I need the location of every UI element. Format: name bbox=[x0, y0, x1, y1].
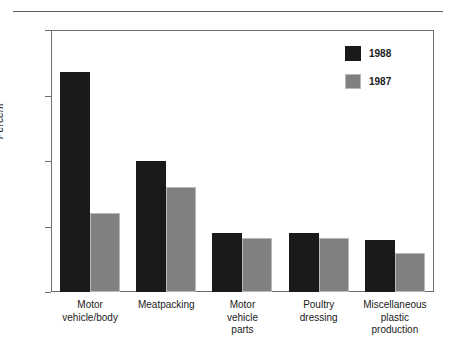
bar-group bbox=[204, 31, 280, 292]
gray-swatch bbox=[345, 74, 361, 89]
legend-label: 1988 bbox=[369, 48, 391, 59]
y-tick-mark bbox=[45, 96, 51, 97]
bar-1987-4[interactable] bbox=[319, 238, 349, 292]
chart-legend: 19881987 bbox=[345, 43, 425, 99]
legend-item-1988[interactable]: 1988 bbox=[345, 43, 425, 63]
x-category-label: Miscellaneous plastic production bbox=[345, 299, 445, 337]
legend-label: 1987 bbox=[369, 76, 391, 87]
bar-1988-5[interactable] bbox=[365, 240, 395, 292]
bar-1988-4[interactable] bbox=[289, 233, 319, 292]
x-axis-category-labels: Motor vehicle/bodyMeatpackingMotor vehic… bbox=[52, 299, 433, 351]
legend-item-1987[interactable]: 1987 bbox=[345, 71, 425, 91]
y-axis-title: Percent bbox=[0, 103, 5, 139]
y-tick-mark bbox=[45, 30, 51, 31]
black-swatch bbox=[345, 46, 361, 61]
bar-1988-1[interactable] bbox=[60, 72, 90, 292]
bar-1987-2[interactable] bbox=[166, 187, 196, 292]
bar-1987-1[interactable] bbox=[90, 213, 120, 292]
bar-chart-figure: Percent 05101520 Motor vehicle/bodyMeatp… bbox=[0, 0, 456, 355]
y-tick-mark bbox=[45, 161, 51, 162]
y-tick-mark bbox=[45, 292, 51, 293]
y-tick-mark bbox=[45, 227, 51, 228]
bar-group bbox=[128, 31, 204, 292]
bar-1988-2[interactable] bbox=[136, 161, 166, 292]
bar-1987-3[interactable] bbox=[242, 238, 272, 292]
bar-1987-5[interactable] bbox=[395, 253, 425, 292]
bar-group bbox=[52, 31, 128, 292]
top-horizontal-rule bbox=[13, 11, 443, 12]
bar-1988-3[interactable] bbox=[212, 233, 242, 292]
